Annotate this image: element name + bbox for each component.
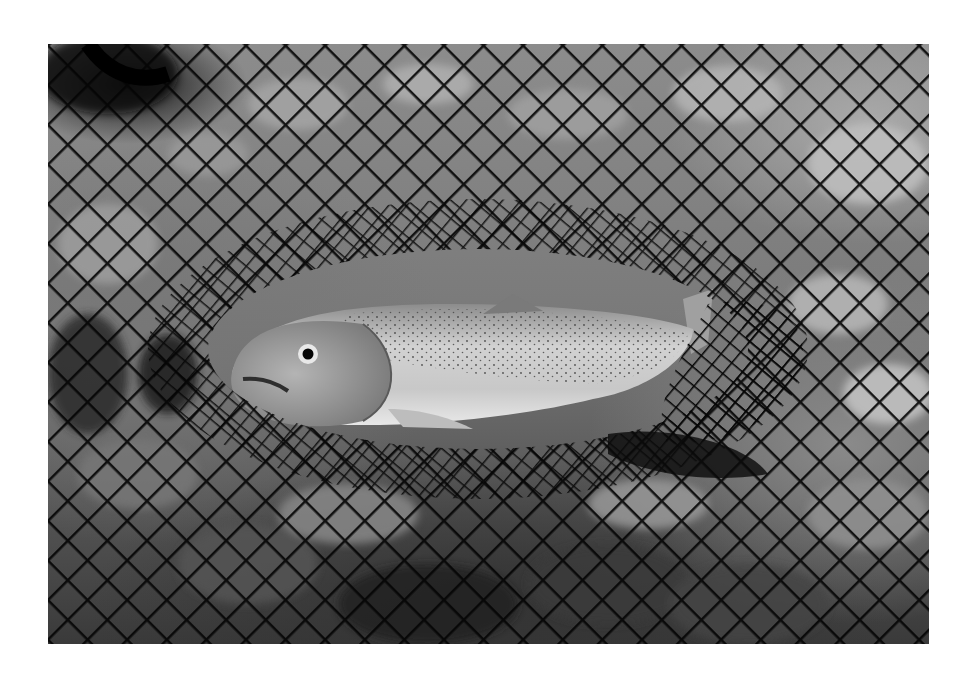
trout-photo — [48, 44, 929, 644]
landing-net — [48, 44, 929, 644]
